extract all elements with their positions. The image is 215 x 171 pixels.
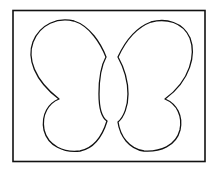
butterfly-drawing bbox=[0, 0, 215, 171]
drawing-canvas bbox=[0, 0, 215, 171]
right-wing bbox=[118, 21, 192, 152]
left-wing bbox=[31, 20, 107, 151]
